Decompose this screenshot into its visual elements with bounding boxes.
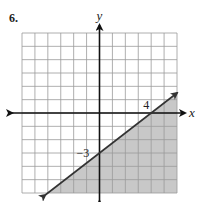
x-intercept-label: 4 — [143, 98, 149, 112]
inequality-graph: x y 4 −3 — [0, 0, 202, 202]
y-axis-label: y — [95, 8, 103, 23]
x-axis-label: x — [188, 105, 195, 120]
y-intercept-label: −3 — [77, 146, 90, 160]
